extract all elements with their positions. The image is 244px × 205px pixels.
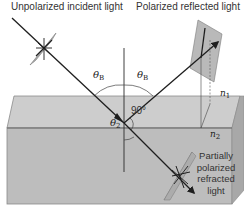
incident-light-label: Unpolarized incident light — [11, 1, 123, 12]
refracted-label-line-1: Partially — [191, 150, 241, 162]
refracted-label-line-4: light — [191, 185, 241, 197]
brewster-diagram: Unpolarized incident light Polarized ref… — [0, 0, 244, 205]
right-angle-label: 90° — [131, 106, 146, 116]
refracted-label-line-2: polarized — [191, 162, 241, 174]
theta-b-right-label: θB — [137, 70, 148, 83]
n2-label: n2 — [210, 129, 220, 142]
subscript-b: B — [143, 74, 148, 82]
subscript-2: 2 — [116, 122, 120, 130]
reflected-polarizer — [190, 20, 222, 82]
subscript-2: 2 — [216, 133, 220, 141]
refracted-light-label: Partially polarized refracted light — [191, 150, 241, 196]
refracted-label-line-3: refracted — [191, 173, 241, 185]
theta-b-left-label: θB — [93, 70, 104, 83]
reflected-light-label: Polarized reflected light — [136, 1, 240, 12]
theta-2-label: θ2 — [110, 118, 121, 131]
subscript-b: B — [99, 74, 104, 82]
theta-b-arc-left — [94, 85, 124, 96]
n1-label: n1 — [220, 88, 230, 101]
subscript-1: 1 — [226, 92, 230, 100]
theta-b-arc-right — [124, 85, 153, 96]
